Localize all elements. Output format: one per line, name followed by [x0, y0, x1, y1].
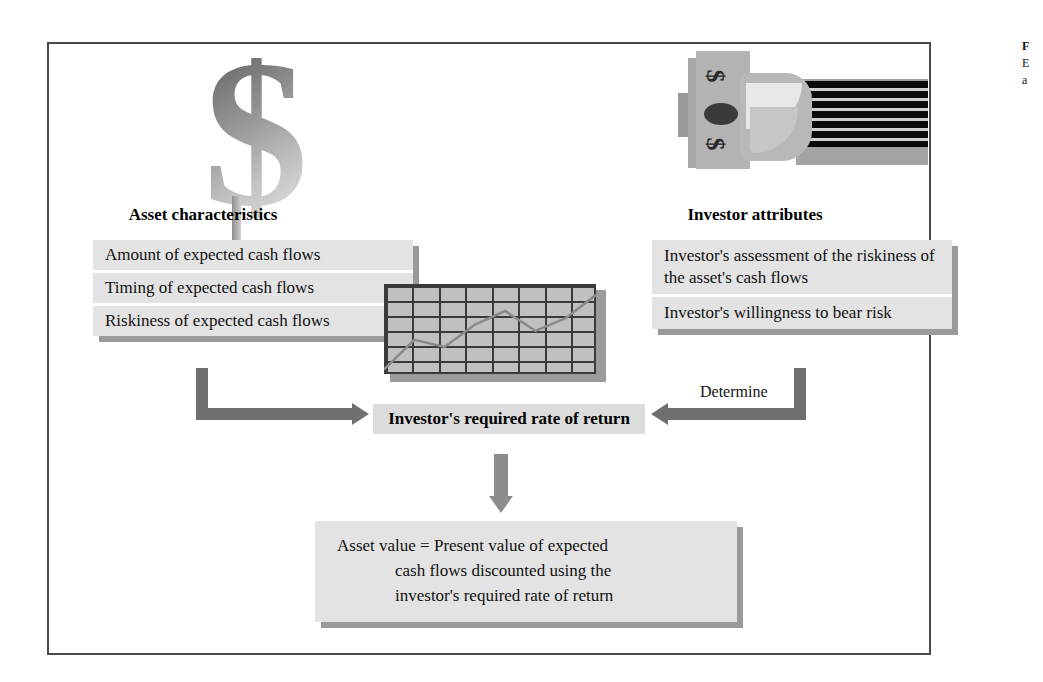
figure-caption: F E a	[1022, 38, 1043, 98]
asset-value-formula-panel: Asset value = Present value of expected …	[315, 521, 737, 622]
banknote-dollar-top-icon: $	[700, 70, 730, 83]
formula-line-1: Asset value = Present value of expected	[337, 533, 727, 558]
line-chart-graphic	[384, 284, 606, 382]
chart-trend-line	[384, 284, 596, 374]
formula-line-2: cash flows discounted using the	[337, 558, 727, 583]
right-arrow-horizontal-shaft	[668, 408, 806, 420]
asset-item-timing: Timing of expected cash flows	[93, 270, 413, 303]
right-arrowhead-left	[651, 403, 668, 425]
investor-item-willingness: Investor's willingness to bear risk	[652, 294, 952, 329]
caption-line-1: F	[1022, 38, 1043, 55]
investor-item-assessment: Investor's assessment of the riskiness o…	[652, 240, 952, 294]
asset-item-riskiness: Riskiness of expected cash flows	[93, 303, 413, 336]
left-arrowhead-right	[352, 403, 369, 425]
required-rate-of-return-bar: Investor's required rate of return	[373, 404, 645, 434]
banknote-dollar-bottom-icon: $	[700, 138, 730, 151]
money-stripes-shape	[800, 81, 928, 147]
banknote-oval-shape	[704, 103, 738, 125]
down-arrow-shaft	[494, 454, 508, 498]
investor-attributes-heading: Investor attributes	[640, 205, 870, 225]
asset-item-amount: Amount of expected cash flows	[93, 240, 413, 270]
determine-label: Determine	[700, 383, 768, 401]
hand-with-money-icon: $ $	[688, 55, 928, 185]
dollar-sign-icon: $	[186, 58, 326, 218]
investor-attributes-panel: Investor's assessment of the riskiness o…	[652, 240, 952, 329]
caption-line-2: E	[1022, 55, 1043, 72]
left-arrow-horizontal-shaft	[196, 408, 352, 420]
asset-characteristics-heading: Asset characteristics	[93, 205, 313, 225]
formula-line-3: investor's required rate of return	[337, 583, 727, 608]
down-arrowhead	[489, 496, 513, 513]
caption-line-3: a	[1022, 72, 1043, 89]
required-rate-of-return-text: Investor's required rate of return	[388, 409, 630, 429]
asset-characteristics-panel: Amount of expected cash flows Timing of …	[93, 240, 413, 336]
